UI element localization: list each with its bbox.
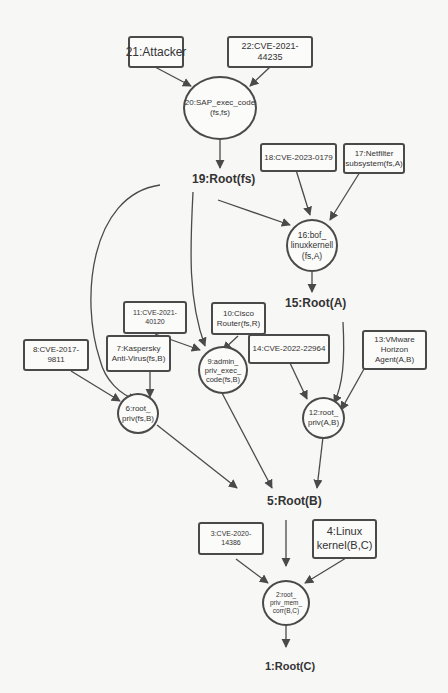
node-21-attacker: 21:Attacker <box>128 36 184 68</box>
node-label: 8:CVE-2017-9811 <box>27 345 85 365</box>
node-18-cve-2023-0179: 18:CVE-2023-0179 <box>260 143 337 172</box>
node-label: 11:CVE-2021-40120 <box>127 309 183 327</box>
node-13-vmware-horizon: 13:VMware Horizon Agent(A,B) <box>362 330 427 370</box>
edge-6-5 <box>157 425 237 488</box>
node-label: 18:CVE-2023-0179 <box>264 153 333 163</box>
node-19-root-fs: 19:Root(fs) <box>192 172 255 186</box>
edge-19-9 <box>191 192 205 346</box>
edge-8-6 <box>71 371 120 401</box>
edge-18-16 <box>296 170 310 215</box>
edge-21-20 <box>155 67 191 86</box>
node-label: 10:Cisco Router(fs,R) <box>217 309 261 329</box>
node-22-cve-2021-44235: 22:CVE-2021-44235 <box>227 36 313 68</box>
edge-14-12 <box>290 363 307 399</box>
node-5-root-b: 5:Root(B) <box>267 494 322 508</box>
node-12-root-priv-a-b: 12:root_ priv(A,B) <box>302 397 345 439</box>
node-3-cve-2020-14386: 3:CVE-2020-14386 <box>198 522 264 555</box>
node-2-root-priv-mem-corr: 2:root_ priv_mem_ corr(B,C) <box>262 580 310 626</box>
edge-19-16 <box>218 200 290 225</box>
node-20-sap-exec-code: 20:SAP_exec_code (fs,fs) <box>183 76 257 140</box>
node-6-root-priv-fs-b: 6:root_ priv(fs,B) <box>117 393 159 434</box>
edge-22-20 <box>250 67 270 86</box>
node-15-root-a: 15:Root(A) <box>285 296 346 310</box>
node-label: 21:Attacker <box>126 45 187 60</box>
node-label: 20:SAP_exec_code (fs,fs) <box>185 98 255 117</box>
edge-12-5 <box>317 437 323 488</box>
node-4-linux-kernel: 4:Linux kernel(B,C) <box>312 519 377 559</box>
node-17-netfilter: 17:Netfilter subsystem(fs,A) <box>343 143 405 174</box>
node-label: 2:root_ priv_mem_ corr(B,C) <box>270 591 302 614</box>
edge-3-2 <box>236 559 268 583</box>
edge-17-16 <box>330 172 360 220</box>
node-1-root-c: 1:Root(C) <box>265 660 315 672</box>
node-10-cisco-router: 10:Cisco Router(fs,R) <box>211 302 266 335</box>
node-label: 14:CVE-2022-22964 <box>253 344 326 354</box>
node-label: 12:root_ priv(A,B) <box>308 408 339 427</box>
node-label: 4:Linux kernel(B,C) <box>317 525 373 553</box>
node-label: 13:VMware Horizon Agent(A,B) <box>374 335 414 365</box>
edge-13-12 <box>341 369 364 410</box>
node-label: 17:Netfilter subsystem(fs,A) <box>345 149 402 169</box>
node-8-cve-2017-9811: 8:CVE-2017-9811 <box>23 339 89 371</box>
node-11-cve-2021-40120: 11:CVE-2021-40120 <box>123 301 187 334</box>
node-14-cve-2022-22964: 14:CVE-2022-22964 <box>248 334 330 364</box>
edge-9-5 <box>222 393 272 488</box>
node-9-admin-priv-exec-code: 9:admin_ priv_exec_ code(fs,B) <box>198 346 248 394</box>
node-label: 6:root_ priv(fs,B) <box>122 404 154 423</box>
node-label: 22:CVE-2021-44235 <box>231 41 309 64</box>
edge-4-2 <box>305 558 346 583</box>
node-label: 16:bof_ linuxkernell (fs,A) <box>291 230 334 261</box>
node-16-bof-linuxkernell: 16:bof_ linuxkernell (fs,A) <box>286 219 338 272</box>
edge-15-12 <box>334 322 344 403</box>
node-label: 9:admin_ priv_exec_ code(fs,B) <box>205 357 241 384</box>
node-label: 7:Kaspersky Anti-Virus(fs,B) <box>112 344 166 364</box>
node-label: 3:CVE-2020-14386 <box>202 530 260 548</box>
node-7-kaspersky: 7:Kaspersky Anti-Virus(fs,B) <box>106 335 171 372</box>
